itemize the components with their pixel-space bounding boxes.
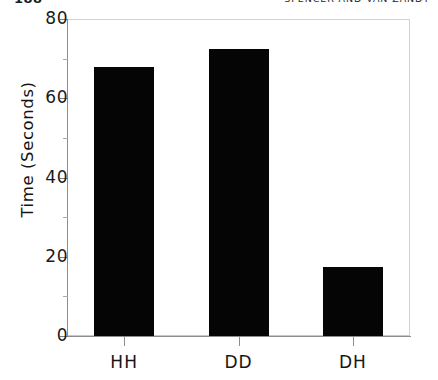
x-tick-label: HH — [84, 352, 164, 372]
x-tick — [353, 337, 354, 346]
y-tick-label: 20 — [16, 246, 68, 266]
y-tick-minor — [63, 59, 68, 60]
y-tick-label: 0 — [16, 325, 68, 345]
x-tick-label: DH — [313, 352, 393, 372]
x-tick — [239, 337, 240, 346]
y-tick-label: 80 — [16, 8, 68, 28]
x-tick-label: DD — [199, 352, 279, 372]
y-tick-minor — [63, 138, 68, 139]
bar-dd — [209, 49, 269, 336]
bar-hh — [94, 67, 154, 336]
y-tick-minor — [63, 217, 68, 218]
y-tick-minor — [63, 296, 68, 297]
y-axis-title: Time (Seconds) — [18, 70, 37, 230]
bar-chart-figure: 020406080 Time (Seconds) HHDDDH — [0, 0, 438, 380]
x-tick — [124, 337, 125, 346]
bar-dh — [323, 267, 383, 336]
